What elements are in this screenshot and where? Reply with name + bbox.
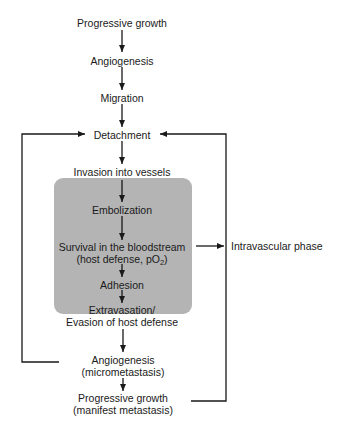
survival-line2: (host defense, pO2): [59, 253, 186, 269]
step-invasion-into-vessels: Invasion into vessels: [74, 166, 171, 178]
step-embolization: Embolization: [92, 204, 152, 216]
progressive2-line1: Progressive growth: [73, 392, 173, 404]
progressive2-line2: (manifest metastasis): [73, 404, 173, 416]
extravasation-line2: Evasion of host defense: [66, 316, 178, 328]
step-progressive-growth: Progressive growth: [77, 17, 167, 29]
angiogenesis2-line1: Angiogenesis: [82, 354, 165, 366]
survival-line1: Survival in the bloodstream: [59, 241, 186, 253]
step-survival-in-bloodstream: Survival in the bloodstream (host defens…: [59, 241, 186, 269]
step-adhesion: Adhesion: [100, 279, 144, 291]
step-progressive-growth-manifest: Progressive growth (manifest metastasis): [73, 392, 173, 416]
angiogenesis2-line2: (micrometastasis): [82, 366, 165, 378]
step-migration: Migration: [100, 92, 143, 104]
step-angiogenesis-micrometastasis: Angiogenesis (micrometastasis): [82, 354, 165, 378]
connector-arrows: [0, 0, 338, 425]
metastasis-cascade-diagram: Progressive growth Angiogenesis Migratio…: [0, 0, 338, 425]
step-extravasation: Extravasation/ Evasion of host defense: [66, 304, 178, 328]
extravasation-line1: Extravasation/: [66, 304, 178, 316]
step-angiogenesis: Angiogenesis: [90, 55, 153, 67]
step-detachment: Detachment: [94, 129, 151, 141]
intravascular-phase-label: Intravascular phase: [231, 240, 323, 252]
